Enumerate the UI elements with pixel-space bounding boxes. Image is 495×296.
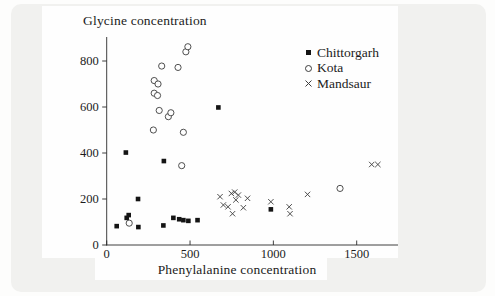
data-point-kota <box>159 63 165 69</box>
data-point-chittorgarh <box>186 219 191 224</box>
data-point-chittorgarh <box>161 223 166 228</box>
legend-item-kota: Kota <box>302 61 379 77</box>
x-cross-icon <box>302 79 314 88</box>
data-point-mandsaur <box>287 211 292 216</box>
data-point-chittorgarh <box>195 218 200 223</box>
data-point-mandsaur <box>236 192 241 197</box>
legend-label: Kota <box>314 60 343 76</box>
data-point-mandsaur <box>268 199 273 204</box>
x-tick-label: 1000 <box>261 247 286 261</box>
data-point-mandsaur <box>233 197 238 202</box>
legend-item-mandsaur: Mandsaur <box>302 76 379 92</box>
x-tick-label: 500 <box>181 247 200 261</box>
legend-label: Chittorgarh <box>314 45 379 61</box>
data-point-kota <box>185 44 191 50</box>
data-point-chittorgarh <box>269 207 274 212</box>
y-tick-label: 600 <box>80 100 99 114</box>
data-point-kota <box>168 110 174 116</box>
data-point-mandsaur <box>245 196 250 201</box>
data-point-kota <box>175 64 181 70</box>
data-point-mandsaur <box>230 211 235 216</box>
x-tick-label: 0 <box>104 247 110 261</box>
data-point-mandsaur <box>305 192 310 197</box>
data-point-chittorgarh <box>114 224 119 229</box>
data-point-mandsaur <box>287 204 292 209</box>
x-axis-title: Phenylalanine concentration <box>112 262 362 278</box>
data-point-kota <box>126 220 132 226</box>
open-circle-icon <box>302 64 314 73</box>
data-point-chittorgarh <box>181 218 186 223</box>
y-tick-label: 0 <box>92 238 98 252</box>
data-point-chittorgarh <box>126 213 131 218</box>
legend-item-chittorgarh: Chittorgarh <box>302 45 379 61</box>
data-point-chittorgarh <box>136 197 141 202</box>
data-point-mandsaur <box>375 162 380 167</box>
data-point-kota <box>150 127 156 133</box>
data-point-mandsaur <box>221 202 226 207</box>
filled-square-icon <box>302 49 314 56</box>
data-point-chittorgarh <box>216 105 221 110</box>
figure-canvas: Glycine concentration 020040060080005001… <box>0 0 495 296</box>
legend-label: Mandsaur <box>314 76 371 92</box>
x-tick-label: 1500 <box>344 247 369 261</box>
y-tick-label: 200 <box>80 192 99 206</box>
data-point-chittorgarh <box>124 150 129 155</box>
data-point-kota <box>155 81 161 87</box>
data-point-chittorgarh <box>162 159 167 164</box>
data-point-kota <box>179 163 185 169</box>
legend: Chittorgarh Kota Mandsaur <box>302 45 379 92</box>
data-point-kota <box>154 92 160 98</box>
data-point-mandsaur <box>369 162 374 167</box>
data-point-kota <box>180 129 186 135</box>
data-point-mandsaur <box>225 204 230 209</box>
data-point-mandsaur <box>217 194 222 199</box>
data-point-kota <box>156 107 162 113</box>
data-point-chittorgarh <box>177 217 182 222</box>
data-point-chittorgarh <box>171 216 176 221</box>
data-point-chittorgarh <box>136 225 141 230</box>
y-tick-label: 800 <box>80 54 99 68</box>
y-tick-label: 400 <box>80 146 99 160</box>
data-point-kota <box>337 185 343 191</box>
scatter-plot: 0200400600800050010001500 <box>0 0 495 296</box>
data-point-mandsaur <box>241 205 246 210</box>
